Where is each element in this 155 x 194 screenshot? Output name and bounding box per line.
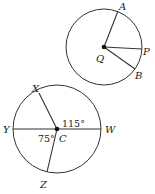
radius-qa	[104, 11, 118, 47]
angle-label-ycz: 75°	[38, 133, 55, 144]
label-q: Q	[96, 53, 104, 64]
label-b: B	[134, 70, 142, 81]
label-c: C	[59, 133, 67, 144]
label-z: Z	[39, 179, 48, 190]
label-w: W	[105, 124, 116, 135]
geometry-figure: A P B Q X Y W Z C 115° 75°	[0, 0, 155, 194]
label-y: Y	[3, 124, 11, 135]
angle-label-xcw: 115°	[62, 118, 85, 129]
circle-q-group: A P B Q	[66, 1, 150, 85]
circle-c-group: X Y W Z C 115° 75°	[3, 83, 116, 190]
center-point-c	[55, 127, 60, 132]
radius-qb	[104, 47, 135, 69]
label-a: A	[118, 1, 126, 12]
radius-qp	[104, 47, 142, 49]
label-x: X	[31, 83, 40, 94]
label-p: P	[142, 46, 150, 57]
radius-cx	[39, 93, 57, 129]
center-point-q	[102, 45, 107, 50]
